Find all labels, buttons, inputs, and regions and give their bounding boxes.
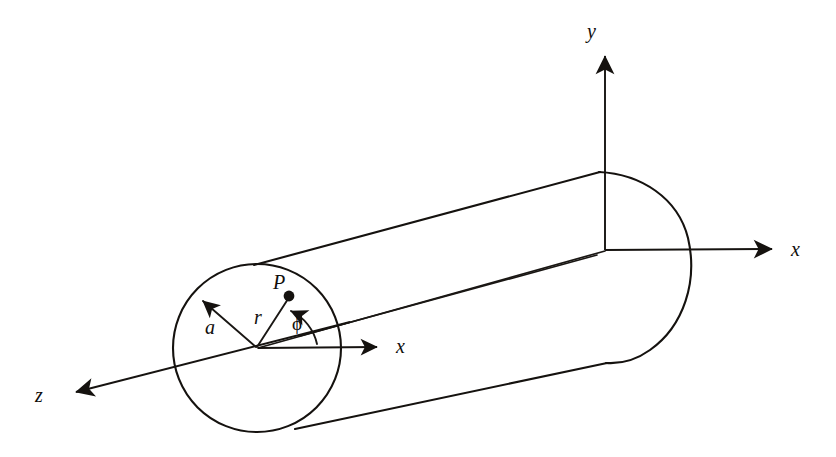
point-P-annotation: P r <box>254 271 294 347</box>
cylinder-top-edge <box>254 172 600 265</box>
local-x-axis-label: x <box>395 335 405 357</box>
radius-a-annotation: a <box>203 301 256 347</box>
y-axis-label: y <box>585 20 596 43</box>
angle-phi-annotation: ϕ <box>291 311 317 344</box>
z-axis-label: z <box>34 384 43 406</box>
z-axis: z <box>34 322 350 406</box>
figure-root: y x z x a P r ϕ <box>0 0 836 457</box>
radial-r-label: r <box>254 306 262 328</box>
point-P-marker <box>284 291 295 302</box>
local-x-axis-line <box>258 347 377 348</box>
cylinder-coordinate-diagram: y x z x a P r ϕ <box>0 0 836 457</box>
point-P-label: P <box>272 271 285 293</box>
x-axis-label: x <box>790 238 800 260</box>
angle-phi-label: ϕ <box>292 313 302 334</box>
cylinder-bottom-edge <box>295 363 607 429</box>
x-axis-line <box>605 249 772 250</box>
global-axes: y x <box>585 20 800 260</box>
right-end-arc <box>599 172 691 363</box>
local-axes: x <box>258 335 405 357</box>
circular-cylinder <box>173 172 691 432</box>
radius-a-label: a <box>205 316 215 338</box>
